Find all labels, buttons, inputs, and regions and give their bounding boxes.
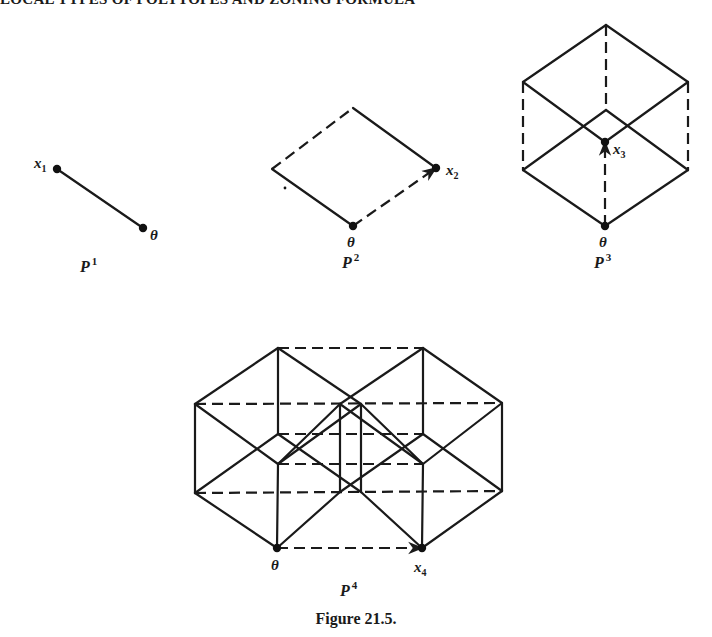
edge — [523, 25, 606, 82]
polytope-name-label: P4 — [339, 579, 358, 599]
vertex-dot — [432, 164, 440, 172]
generator-label: x3 — [612, 141, 626, 160]
edge — [272, 169, 353, 226]
generator-label: x4 — [413, 559, 427, 578]
edge — [606, 110, 688, 170]
edge — [605, 82, 688, 142]
edge — [340, 348, 423, 404]
dashed-edge — [195, 403, 502, 404]
vertex-dot — [601, 222, 609, 230]
vertex-dot — [601, 138, 609, 146]
edge — [195, 493, 277, 548]
dashed-edge — [195, 491, 502, 493]
dashed-edge — [272, 108, 353, 169]
polytope-P2: x2θP2 — [272, 108, 459, 271]
origin-label: θ — [271, 557, 279, 573]
edge — [523, 170, 605, 226]
polytope-name-label: P3 — [593, 251, 612, 271]
edge — [423, 403, 502, 464]
generator-arrow — [353, 168, 436, 226]
stray-dot — [284, 187, 287, 190]
edge — [423, 348, 502, 403]
polytope-name-label: P2 — [341, 251, 360, 271]
figure-caption: Figure 21.5. — [0, 610, 712, 628]
edge — [195, 434, 278, 493]
origin-label: θ — [347, 234, 355, 250]
polytope-P3: x3θP3 — [523, 25, 688, 271]
edge — [422, 491, 502, 548]
edge — [523, 110, 606, 170]
vertex-dot — [53, 165, 61, 173]
generator-label: x1 — [33, 155, 47, 174]
edge — [195, 348, 278, 404]
vertex-dot — [273, 544, 281, 552]
origin-label: θ — [599, 234, 607, 250]
edge — [605, 170, 688, 226]
edge — [523, 82, 605, 142]
edge — [353, 108, 436, 168]
polytope-P4: θx4P4 — [195, 348, 502, 599]
vertex-dot — [349, 222, 357, 230]
edge — [278, 348, 361, 404]
polytope-figure: x1θP1 x2θP2 x3θP3 θx4P4 — [0, 0, 712, 637]
edge — [195, 404, 278, 464]
edge — [57, 169, 143, 228]
generator-label: x2 — [445, 162, 459, 181]
polytope-name-label: P1 — [79, 255, 97, 275]
edge — [606, 25, 688, 82]
edge — [423, 434, 502, 491]
edge — [277, 492, 340, 548]
polytope-P1: x1θP1 — [33, 155, 158, 275]
vertex-dot — [418, 544, 426, 552]
edge — [361, 492, 422, 548]
vertex-dot — [139, 224, 147, 232]
edge — [277, 464, 278, 548]
edge — [422, 464, 423, 548]
origin-label: θ — [150, 227, 158, 243]
